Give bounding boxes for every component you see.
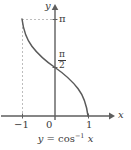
- figure-caption: y = cos−1 x: [0, 132, 131, 144]
- pi-over-two-fraction: π 2: [58, 50, 66, 70]
- x-axis-arrowhead: [109, 113, 115, 120]
- arccos-graph-figure: y x π π 2 −1 0 1 y = cos−1 x: [0, 0, 131, 150]
- x-tick-label-zero: 0: [46, 120, 52, 130]
- x-tick-label-minus-one: −1: [14, 120, 29, 130]
- x-axis-label: x: [118, 110, 124, 120]
- caption-variable-y: y: [38, 133, 44, 144]
- y-tick-label-pi-over-two: π 2: [58, 50, 66, 71]
- caption-equals: =: [47, 133, 55, 144]
- x-tick-label-one: 1: [86, 120, 92, 130]
- caption-variable-x: x: [88, 133, 94, 144]
- fraction-denominator: 2: [58, 61, 66, 70]
- caption-exponent: −1: [75, 132, 85, 140]
- caption-function-name: cos: [58, 133, 75, 144]
- y-tick-label-pi: π: [59, 14, 66, 24]
- fraction-numerator: π: [58, 50, 66, 59]
- y-axis-arrowhead: [52, 4, 59, 10]
- y-axis-label: y: [45, 1, 51, 11]
